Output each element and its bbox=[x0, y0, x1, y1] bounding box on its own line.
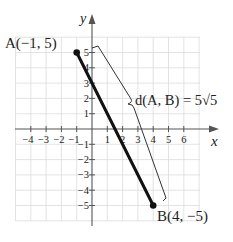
y-tick-label: −3 bbox=[78, 169, 89, 180]
y-tick-label: −4 bbox=[78, 185, 90, 196]
y-tick-label: 3 bbox=[84, 78, 89, 89]
point-a-label: A(−1, 5) bbox=[5, 35, 57, 52]
x-axis-arrow-icon bbox=[209, 126, 219, 133]
y-tick-label: −2 bbox=[78, 154, 89, 165]
x-tick-label: −2 bbox=[53, 134, 64, 145]
x-axis-label: x bbox=[210, 133, 218, 149]
y-tick-label: 5 bbox=[84, 47, 89, 58]
y-tick-label: −1 bbox=[78, 139, 89, 150]
point-a bbox=[73, 49, 80, 56]
x-tick-label: −4 bbox=[22, 134, 34, 145]
y-tick-label: 2 bbox=[84, 93, 89, 104]
coordinate-plane: −4 −3 −2 −1 1 2 3 4 5 6 5 4 3 2 1 −1 −2 … bbox=[0, 0, 233, 242]
y-axis-label: y bbox=[78, 11, 87, 26]
x-tick-label: 1 bbox=[105, 134, 110, 145]
y-tick-label: −5 bbox=[78, 200, 89, 211]
point-b-label: B(4, −5) bbox=[157, 208, 208, 225]
x-tick-label: 3 bbox=[135, 134, 140, 145]
y-axis-arrow-icon bbox=[89, 14, 96, 24]
x-tick-labels: −4 −3 −2 −1 1 2 3 4 5 6 bbox=[22, 134, 186, 145]
x-tick-label: 6 bbox=[181, 134, 186, 145]
x-tick-label: −3 bbox=[38, 134, 49, 145]
distance-label: d(A, B) = 5√5 bbox=[135, 92, 217, 109]
y-tick-label: 1 bbox=[84, 108, 89, 119]
distance-brace bbox=[92, 46, 166, 201]
x-tick-label: 4 bbox=[151, 134, 157, 145]
x-tick-label: 5 bbox=[166, 134, 171, 145]
point-b bbox=[150, 202, 157, 209]
